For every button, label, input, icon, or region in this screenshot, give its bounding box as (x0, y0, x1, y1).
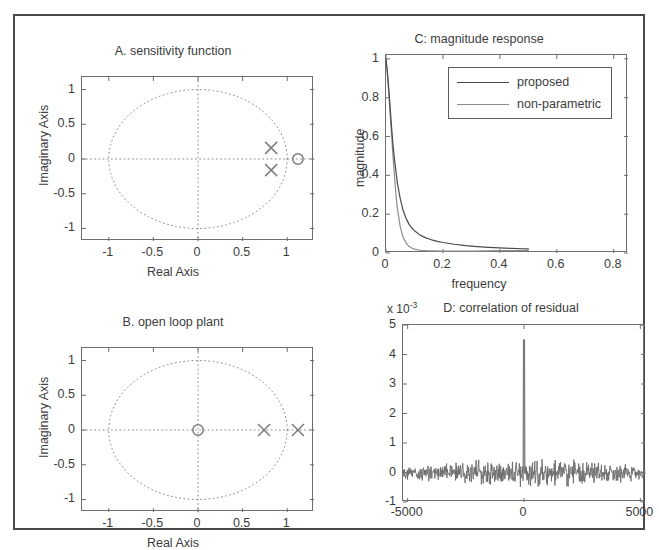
panel-d-ytick-4: 1 (374, 435, 396, 449)
panel-c-ytick-0: 1 (345, 51, 379, 65)
panel-a-title: A. sensitivity function (15, 44, 331, 58)
panel-b-ytick-3: -0.5 (43, 457, 75, 471)
panel-b-title: B. open loop plant (15, 315, 331, 329)
panel-b-ytick-4: -1 (43, 491, 75, 505)
panel-b-ytick-0: 1 (43, 353, 75, 367)
panel-b-ytick-2: 0 (43, 422, 75, 436)
panel-d-xtick-2: 5000 (625, 505, 653, 519)
panel-d-ytick-3: 2 (374, 406, 396, 420)
pole-marker (265, 164, 277, 176)
legend-item-non-parametric: non-parametric (457, 94, 601, 114)
panel-c-ytick-4: 0.2 (345, 206, 379, 220)
panel-a-ytick-2: 0 (43, 151, 75, 165)
panel-b-ytick-1: 0.5 (43, 387, 75, 401)
panel-c-ytick-2: 0.6 (345, 129, 379, 143)
panel-a-xtick-2: 0 (194, 245, 201, 259)
panel-c-ytick-1: 0.8 (345, 90, 379, 104)
panel-a-ytick-1: 0.5 (43, 116, 75, 130)
panel-a-ytick-0: 1 (43, 82, 75, 96)
legend-label-non-parametric: non-parametric (517, 97, 601, 111)
panel-d-ytick-2: 3 (374, 376, 396, 390)
panel-a-ytick-4: -1 (43, 220, 75, 234)
panel-b-axes (81, 347, 313, 511)
panel-d-ytick-0: 5 (374, 317, 396, 331)
panel-b-xtick-2: 0 (194, 516, 201, 530)
panel-a-ytick-3: -0.5 (43, 186, 75, 200)
panel-a-xtick-0: -1 (102, 245, 113, 259)
panel-c-xtick-3: 0.6 (547, 257, 564, 271)
panel-a-xtick-3: 0.5 (233, 245, 250, 259)
legend-line-non-parametric (457, 104, 509, 105)
panel-b-xtick-4: 1 (283, 516, 290, 530)
panel-b-open-loop-plant: B. open loop plant Imaginary Axis Real A… (15, 301, 331, 531)
panel-c-xtick-1: 0.2 (433, 257, 450, 271)
panel-d-ytick-6: -1 (374, 494, 396, 508)
panel-a-axes (81, 76, 313, 240)
panel-c-ytick-3: 0.4 (345, 167, 379, 181)
panel-d-ytick-5: 0 (374, 465, 396, 479)
panel-c-xtick-4: 0.8 (604, 257, 621, 271)
panel-b-xtick-3: 0.5 (233, 516, 250, 530)
pole-marker (292, 424, 304, 436)
panel-c-xtick-0: 0 (382, 257, 389, 271)
figure-frame: A. sensitivity function Imaginary Axis R… (13, 14, 645, 530)
panel-c-axes: proposed non-parametric (385, 54, 627, 252)
panel-a-xtick-4: 1 (283, 245, 290, 259)
panel-b-xtick-0: -1 (102, 516, 113, 530)
panel-c-legend: proposed non-parametric (448, 67, 612, 119)
panel-d-axes (402, 324, 644, 501)
panel-b-xtick-1: -0.5 (142, 516, 164, 530)
panel-c-ytick-5: 0 (345, 245, 379, 259)
panel-a-sensitivity-function: A. sensitivity function Imaginary Axis R… (15, 16, 331, 274)
legend-line-proposed (457, 82, 509, 83)
panel-d-correlation-of-residual: x 10-3 D: correlation of residual -50000… (331, 301, 647, 531)
panel-c-xtick-2: 0.4 (490, 257, 507, 271)
legend-item-proposed: proposed (457, 72, 569, 92)
panel-c-xlabel: frequency (321, 277, 637, 291)
panel-d-xtick-1: 0 (520, 505, 527, 519)
panel-c-magnitude-response: C: magnitude response magnitude proposed… (331, 16, 647, 274)
panel-a-xtick-1: -0.5 (142, 245, 164, 259)
legend-label-proposed: proposed (517, 75, 569, 89)
panel-b-xlabel: Real Axis (15, 536, 331, 550)
pole-marker (265, 142, 277, 154)
panel-d-ytick-1: 4 (374, 347, 396, 361)
panel-a-xlabel: Real Axis (15, 265, 331, 279)
panel-c-title: C: magnitude response (321, 32, 637, 46)
panel-d-title: D: correlation of residual (376, 301, 646, 315)
zero-marker (193, 425, 203, 435)
